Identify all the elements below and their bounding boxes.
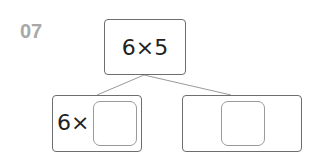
left-branch-box: 6× xyxy=(52,95,142,152)
right-branch-box xyxy=(182,95,302,152)
left-branch-prefix: 6× xyxy=(57,110,89,135)
problem-number: 07 xyxy=(20,20,42,43)
right-answer-blank[interactable] xyxy=(221,101,265,146)
root-expression: 6×5 xyxy=(122,35,168,60)
left-answer-blank[interactable] xyxy=(93,101,137,146)
root-box: 6×5 xyxy=(104,19,186,75)
